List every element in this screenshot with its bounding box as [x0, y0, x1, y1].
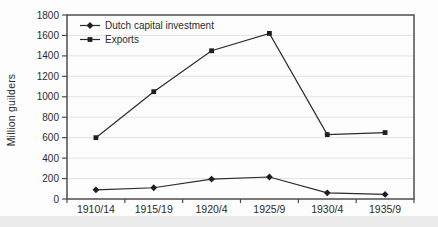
y-tick-label: 600	[42, 132, 59, 143]
legend-item-exports: Exports	[80, 33, 214, 46]
diamond-marker-icon	[80, 21, 100, 30]
y-tick-label: 0	[53, 194, 59, 205]
chart-legend: Dutch capital investment Exports	[80, 19, 214, 46]
data-point-square	[383, 130, 388, 135]
y-tick-label: 1600	[37, 30, 60, 41]
data-point-diamond	[266, 174, 273, 181]
legend-item-dutch-capital-investment: Dutch capital investment	[80, 19, 214, 32]
square-marker-icon	[80, 35, 100, 44]
line-chart-canvas: 0200400600800100012001400160018001910/14…	[0, 0, 438, 227]
y-tick-label: 200	[42, 173, 59, 184]
data-point-square	[94, 135, 99, 140]
legend-label: Exports	[105, 34, 139, 45]
data-point-diamond	[93, 186, 100, 193]
y-tick-label: 800	[42, 112, 59, 123]
y-tick-label: 1800	[37, 10, 60, 21]
data-point-square	[325, 132, 330, 137]
data-point-square	[267, 31, 272, 36]
x-tick-label: 1915/19	[135, 203, 173, 215]
y-tick-label: 1200	[37, 71, 60, 82]
series-line-exports	[96, 33, 385, 137]
y-tick-label: 1400	[37, 50, 60, 61]
y-tick-label: 1000	[37, 91, 60, 102]
chart-figure: 0200400600800100012001400160018001910/14…	[0, 0, 438, 227]
x-tick-label: 1920/4	[196, 203, 228, 215]
y-tick-label: 400	[42, 153, 59, 164]
data-point-square	[151, 89, 156, 94]
data-point-square	[209, 48, 214, 53]
data-point-diamond	[208, 176, 215, 183]
x-tick-label: 1935/9	[369, 203, 401, 215]
legend-label: Dutch capital investment	[105, 20, 214, 31]
x-tick-label: 1925/9	[253, 203, 285, 215]
data-point-diamond	[324, 189, 331, 196]
x-tick-label: 1930/4	[311, 203, 343, 215]
y-axis-title: Million guilders	[5, 35, 19, 185]
series-line-dutch-capital-investment	[96, 177, 385, 194]
data-point-diamond	[382, 191, 389, 198]
data-point-diamond	[150, 184, 157, 191]
x-tick-label: 1910/14	[77, 203, 115, 215]
